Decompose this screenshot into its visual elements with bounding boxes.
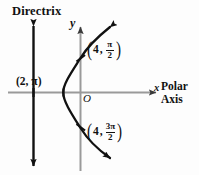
theta-fraction: 3π 2: [105, 122, 116, 142]
origin-label: O: [83, 93, 91, 104]
polar-axis-label: Polar Axis: [161, 80, 199, 106]
close-paren: ): [117, 124, 122, 139]
fraction-denominator: 2: [107, 51, 112, 61]
fraction-numerator: π: [107, 40, 112, 50]
x-axis-label: x: [154, 83, 159, 94]
fraction-denominator: 2: [108, 133, 113, 143]
radius-value: 4: [93, 44, 100, 56]
directrix-label: Directrix: [12, 5, 61, 18]
fraction-numerator: 3π: [106, 122, 115, 132]
close-paren: ): [116, 42, 121, 57]
open-paren: (: [87, 124, 92, 139]
polar-conic-figure: Directrix y O x Polar Axis (2, π) ( 4 , …: [0, 0, 199, 175]
theta-fraction: π 2: [105, 40, 115, 60]
point-label-2-pi: (2, π): [16, 76, 41, 88]
y-axis-label: y: [70, 17, 75, 29]
open-paren: (: [87, 42, 92, 57]
point-label-4-pi-over-2: ( 4 , π 2 ): [86, 40, 122, 60]
radius-value: 4: [93, 126, 100, 138]
point-label-4-3pi-over-2: ( 4 , 3π 2 ): [86, 122, 123, 142]
